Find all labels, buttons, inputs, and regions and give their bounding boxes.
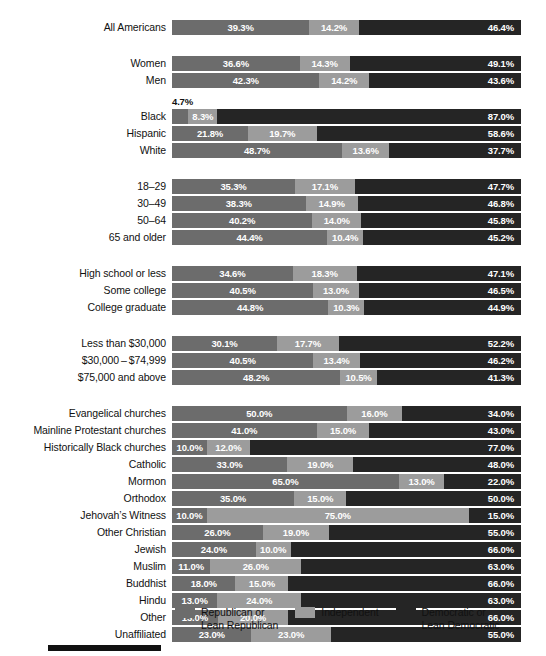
segment-republican: 35.0% — [172, 491, 294, 506]
segment-republican: 18.0% — [172, 576, 235, 591]
row-label: Men — [0, 73, 172, 88]
row-label: High school or less — [0, 266, 172, 281]
segment-value: 19.7% — [269, 129, 295, 139]
segment-republican: 33.0% — [172, 457, 287, 472]
segment-value: 15.0% — [488, 511, 514, 521]
chart-row: 30–4938.3%14.9%46.8% — [0, 196, 546, 211]
row-bar: 44.4%10.4%45.2% — [172, 230, 521, 245]
segment-democratic: 48.0% — [353, 457, 521, 472]
segment-value: 43.6% — [488, 76, 514, 86]
row-bar: 39.3%14.2%46.4% — [172, 20, 521, 35]
segment-value: 30.1% — [211, 339, 237, 349]
segment-value: 35.0% — [220, 494, 246, 504]
segment-democratic: 41.3% — [377, 370, 521, 385]
segment-independent: 17.7% — [277, 336, 339, 351]
segment-value: 44.8% — [237, 303, 263, 313]
chart-row: Evangelical churches50.0%16.0%34.0% — [0, 406, 546, 421]
segment-republican: 21.8% — [172, 126, 248, 141]
segment-democratic: 55.0% — [329, 525, 521, 540]
row-label: Historically Black churches — [0, 440, 172, 455]
row-bar: 48.2%10.5%41.3% — [172, 370, 521, 385]
segment-independent: 14.2% — [319, 73, 369, 88]
segment-value: 38.3% — [226, 199, 252, 209]
segment-democratic: 63.0% — [301, 559, 521, 574]
segment-value: 10.4% — [332, 233, 358, 243]
segment-value: 24.0% — [246, 596, 272, 606]
segment-value: 8.3% — [192, 112, 213, 122]
segment-democratic: 44.9% — [364, 300, 521, 315]
segment-democratic: 66.0% — [288, 576, 521, 591]
row-bar: 48.7%13.6%37.7% — [172, 143, 521, 158]
row-label: Other — [0, 610, 172, 625]
segment-value: 48.0% — [488, 460, 514, 470]
segment-independent: 26.0% — [210, 559, 301, 574]
row-bar: 10.0%12.0%77.0% — [172, 440, 521, 455]
row-bar: 40.2%14.0%45.8% — [172, 213, 521, 228]
segment-value: 17.7% — [295, 339, 321, 349]
legend-item: Democratic or Lean Democratic — [396, 606, 500, 631]
row-bar: 40.5%13.0%46.5% — [172, 283, 521, 298]
segment-value: 41.0% — [231, 426, 257, 436]
segment-independent: 12.0% — [207, 440, 249, 455]
segment-democratic: 45.2% — [363, 230, 521, 245]
segment-value: 23.0% — [278, 630, 304, 640]
row-label: Muslim — [0, 559, 172, 574]
segment-independent: 10.3% — [328, 300, 364, 315]
segment-value: 40.2% — [229, 216, 255, 226]
segment-value: 45.8% — [488, 216, 514, 226]
row-label: Hindu — [0, 593, 172, 608]
segment-republican: 40.5% — [172, 283, 313, 298]
legend-label: Democratic or Lean Democratic — [422, 606, 500, 631]
row-label: 30–49 — [0, 196, 172, 211]
segment-value: 42.3% — [233, 76, 259, 86]
segment-independent: 16.0% — [347, 406, 403, 421]
segment-democratic: 15.0% — [469, 508, 521, 523]
segment-republican: 36.6% — [172, 56, 300, 71]
segment-value: 23.0% — [199, 630, 225, 640]
segment-value: 48.7% — [244, 146, 270, 156]
segment-independent: 75.0% — [207, 508, 469, 523]
row-label: Mormon — [0, 474, 172, 489]
segment-independent: 10.5% — [340, 370, 377, 385]
segment-democratic: 87.0% — [217, 109, 521, 124]
segment-value: 10.3% — [333, 303, 359, 313]
segment-republican: 39.3% — [172, 20, 309, 35]
chart-row: Less than $30,00030.1%17.7%52.2% — [0, 336, 546, 351]
chart-row: Mormon65.0%13.0%22.0% — [0, 474, 546, 489]
row-label: Some college — [0, 283, 172, 298]
segment-value: 15.0% — [307, 494, 333, 504]
segment-value: 15.0% — [249, 579, 275, 589]
chart-row: Black4.7%4.7%8.3%87.0% — [0, 109, 546, 124]
segment-value: 45.2% — [488, 233, 514, 243]
segment-value: 46.4% — [488, 23, 514, 33]
segment-value: 77.0% — [488, 443, 514, 453]
row-bar: 65.0%13.0%22.0% — [172, 474, 521, 489]
segment-value: 49.1% — [488, 59, 514, 69]
row-label: Buddhist — [0, 576, 172, 591]
chart-row: Hispanic21.8%19.7%58.6% — [0, 126, 546, 141]
row-label: Orthodox — [0, 491, 172, 506]
segment-value: 19.0% — [283, 528, 309, 538]
segment-independent: 14.9% — [306, 196, 358, 211]
chart-row: College graduate44.8%10.3%44.9% — [0, 300, 546, 315]
segment-republican: 41.0% — [172, 423, 317, 438]
segment-republican: 40.2% — [172, 213, 312, 228]
segment-republican: 44.8% — [172, 300, 328, 315]
segment-value: 41.3% — [488, 373, 514, 383]
stacked-bar-chart: All Americans39.3%14.2%46.4%Women36.6%14… — [0, 0, 546, 656]
segment-independent: 10.4% — [327, 230, 363, 245]
segment-republican: 48.7% — [172, 143, 342, 158]
segment-democratic: 49.1% — [350, 56, 521, 71]
chart-row: 65 and older44.4%10.4%45.2% — [0, 230, 546, 245]
segment-value: 46.5% — [488, 286, 514, 296]
segment-value: 52.2% — [488, 339, 514, 349]
segment-republican: 24.0% — [172, 542, 256, 557]
row-bar: 50.0%16.0%34.0% — [172, 406, 521, 421]
segment-democratic: 77.0% — [250, 440, 521, 455]
row-bar: 36.6%14.3%49.1% — [172, 56, 521, 71]
chart-row: Muslim11.0%26.0%63.0% — [0, 559, 546, 574]
segment-value: 66.0% — [488, 545, 514, 555]
segment-value: 19.0% — [307, 460, 333, 470]
segment-democratic: 46.8% — [358, 196, 521, 211]
row-bar: 10.0%75.0%15.0% — [172, 508, 521, 523]
